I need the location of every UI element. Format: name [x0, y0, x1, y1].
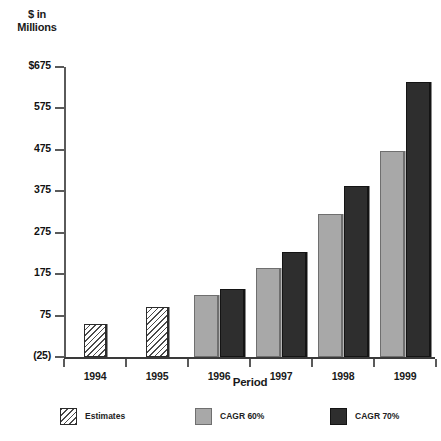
- y-axis-tick-label: 175: [34, 266, 51, 278]
- y-axis-tick-label: 375: [34, 183, 51, 195]
- bar: [406, 82, 430, 358]
- y-axis-tick: $675: [55, 66, 64, 68]
- y-axis-tick: 475: [55, 149, 64, 151]
- x-axis-tick: [125, 359, 127, 367]
- light-gray-swatch: [195, 408, 212, 425]
- bar: [344, 186, 368, 357]
- y-axis-tick-label: 275: [34, 225, 51, 237]
- legend-item[interactable]: Estimates: [60, 406, 125, 426]
- y-axis-tick: 575: [55, 107, 64, 109]
- plot-area: $67557547537527517575(25) 19941995199619…: [64, 60, 436, 359]
- y-axis-line: [64, 67, 66, 359]
- y-axis-tick-label: 475: [34, 142, 51, 154]
- y-axis-tick-label: 575: [34, 100, 51, 112]
- x-axis-tick: [187, 359, 189, 367]
- bar-chart: $ in Millions $67557547537527517575(25) …: [0, 0, 441, 441]
- bar: [146, 307, 168, 357]
- chart-legend: EstimatesCAGR 60%CAGR 70%: [60, 406, 440, 430]
- x-axis-title: Period: [64, 376, 436, 388]
- legend-label: CAGR 60%: [220, 411, 264, 421]
- bar: [84, 324, 106, 357]
- bar: [380, 151, 404, 357]
- legend-item[interactable]: CAGR 70%: [330, 406, 399, 426]
- y-axis-tick-label: (25): [33, 349, 51, 361]
- y-axis-tick: 275: [55, 232, 64, 234]
- y-axis-title: $ in Millions: [2, 8, 72, 34]
- y-axis-tick-label: 75: [40, 308, 51, 320]
- legend-label: CAGR 70%: [355, 411, 399, 421]
- y-axis-title-line-1: $ in: [2, 8, 72, 21]
- hatch-swatch: [60, 408, 77, 425]
- x-axis-tick: [311, 359, 313, 367]
- dark-gray-swatch: [330, 408, 347, 425]
- bar: [282, 252, 306, 357]
- x-axis-tick: [435, 359, 437, 367]
- legend-item[interactable]: CAGR 60%: [195, 406, 264, 426]
- y-axis-tick: 75: [55, 315, 64, 317]
- bar: [256, 268, 280, 357]
- bar: [194, 295, 218, 357]
- y-axis-tick: (25): [55, 356, 64, 358]
- x-axis-tick: [373, 359, 375, 367]
- y-axis-title-line-2: Millions: [2, 21, 72, 34]
- legend-label: Estimates: [85, 411, 125, 421]
- bar: [220, 289, 244, 357]
- x-axis-tick: [249, 359, 251, 367]
- y-axis-tick: 175: [55, 273, 64, 275]
- y-axis-tick: 375: [55, 190, 64, 192]
- x-axis-tick: [63, 359, 65, 367]
- y-axis-tick-label: $675: [28, 59, 51, 71]
- bar: [318, 214, 342, 357]
